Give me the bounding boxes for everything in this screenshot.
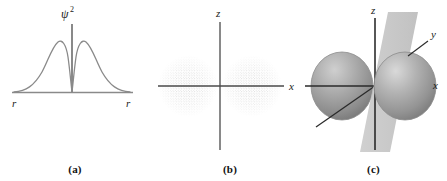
panel-b-svg: z x [150,0,310,181]
z-axis-label: z [370,4,376,16]
panel-c-svg: z x y [300,0,447,181]
panel-a-probability-plot: ψ 2 r r (a) [0,0,150,181]
r-axis-label-left: r [12,97,17,109]
orbital-figure: ψ 2 r r (a) [0,0,447,181]
panel-c-3d-orbital: z x y (c) [300,0,447,181]
x-axis-label: x [432,79,438,91]
panel-c-caption: (c) [300,163,447,175]
y-axis-label: y [430,28,436,40]
psi-squared-label: ψ [61,7,69,21]
orbital-lobe-right [374,52,436,120]
z-axis-label: z [215,7,221,19]
r-axis-label-right: r [126,97,131,109]
x-axis-label: x [288,80,294,92]
panel-b-dot-cloud: z x (b) [150,0,310,181]
psi-squared-superscript: 2 [70,5,74,14]
panel-a-caption: (a) [0,163,150,175]
panel-b-caption: (b) [150,163,310,175]
panel-a-svg: ψ 2 r r [0,0,150,181]
